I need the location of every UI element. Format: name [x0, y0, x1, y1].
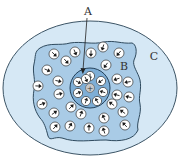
- water-molecule: [107, 99, 117, 109]
- water-molecule: [53, 76, 63, 86]
- water-molecule: [37, 99, 47, 109]
- water-molecule: [84, 123, 94, 133]
- water-molecule: [114, 48, 124, 58]
- water-molecule: [65, 121, 75, 131]
- water-molecule: [98, 42, 108, 52]
- water-molecule: [96, 76, 105, 85]
- water-molecule: [49, 108, 59, 118]
- water-molecule: [49, 49, 59, 59]
- water-molecule: [112, 90, 122, 100]
- water-molecule: [99, 113, 109, 123]
- label-b: B: [120, 60, 128, 73]
- water-molecule: [86, 48, 96, 58]
- water-molecule: [81, 96, 90, 105]
- water-molecule: [124, 92, 134, 102]
- water-molecule: [54, 89, 64, 99]
- water-molecule: [118, 107, 128, 117]
- diagram-canvas: + A B C: [0, 0, 180, 159]
- label-a: A: [83, 5, 93, 18]
- water-molecule: [61, 56, 71, 66]
- water-molecule: [42, 65, 52, 75]
- central-ion: +: [86, 84, 95, 94]
- water-molecule: [50, 122, 60, 132]
- water-molecule: [70, 47, 80, 57]
- water-molecule: [120, 120, 130, 130]
- water-molecule: [66, 102, 76, 112]
- water-molecule: [101, 60, 111, 70]
- water-molecule: [98, 87, 107, 96]
- water-molecule: [33, 81, 43, 91]
- water-molecule: [123, 77, 133, 87]
- label-c: C: [150, 50, 158, 63]
- water-molecule: [81, 74, 90, 83]
- water-molecule: [76, 109, 86, 119]
- water-molecule: [112, 74, 122, 84]
- water-molecule: [73, 88, 82, 97]
- water-molecule: [99, 126, 109, 136]
- central-charge-sign: +: [87, 84, 94, 93]
- water-molecule: [92, 96, 101, 105]
